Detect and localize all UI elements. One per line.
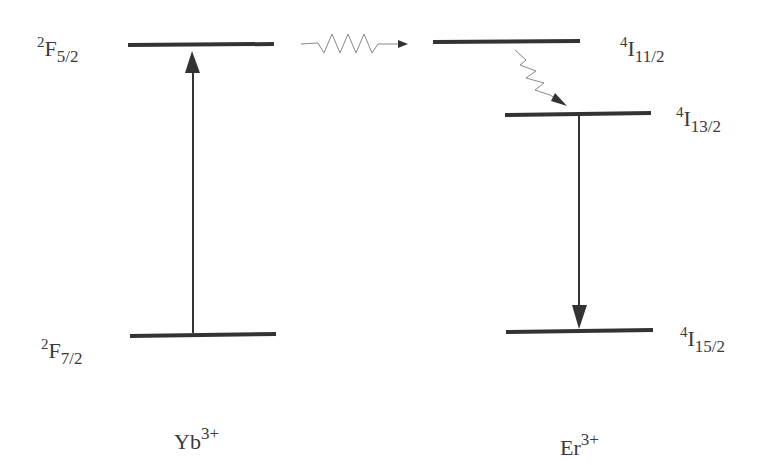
ion-label-er: Er3+	[560, 431, 599, 459]
energy-transfer-wavy-arrow-icon	[301, 34, 408, 53]
level-label-er-4I15-2: 4I15/2	[680, 325, 725, 355]
absorption-arrow-icon	[185, 51, 200, 333]
level-yb-2F7-2	[130, 334, 276, 336]
level-label-er-4I11-2: 4I11/2	[620, 35, 664, 65]
level-yb-2F5-2	[128, 44, 274, 45]
ion-label-yb: Yb3+	[174, 425, 219, 453]
level-er-4I11-2	[433, 41, 580, 42]
level-label-yb-2F5-2: 2F5/2	[37, 35, 78, 65]
relaxation-wavy-arrow-icon	[515, 50, 567, 106]
energy-level-diagram	[0, 0, 781, 465]
emission-arrow-icon	[572, 115, 587, 329]
level-label-yb-2F7-2: 2F7/2	[41, 337, 82, 367]
level-er-4I15-2	[506, 330, 653, 332]
level-label-er-4I13-2: 4I13/2	[676, 105, 721, 135]
level-er-4I13-2	[505, 113, 651, 115]
